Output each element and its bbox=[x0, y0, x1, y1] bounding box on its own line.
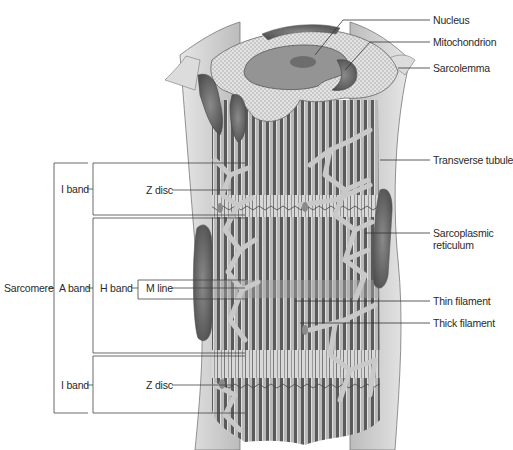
label-m-line: M line bbox=[146, 282, 173, 294]
nucleolus bbox=[290, 56, 316, 68]
label-i-band-bottom: I band bbox=[61, 379, 89, 391]
label-sarcomere: Sarcomere bbox=[4, 282, 54, 294]
label-nucleus: Nucleus bbox=[433, 14, 470, 26]
label-sarcoplasmic-reticulum-line1: Sarcoplasmic bbox=[433, 227, 494, 239]
label-sarcolemma: Sarcolemma bbox=[433, 62, 490, 74]
label-z-disc-top: Z disc bbox=[146, 184, 173, 196]
label-thick-filament: Thick filament bbox=[433, 317, 495, 329]
label-sarcoplasmic-reticulum-line2: reticulum bbox=[433, 239, 474, 251]
label-a-band: A band bbox=[59, 282, 91, 294]
label-h-band: H band bbox=[100, 282, 133, 294]
label-mitochondrion: Mitochondrion bbox=[433, 36, 496, 48]
label-thin-filament: Thin filament bbox=[433, 295, 491, 307]
label-i-band-top: I band bbox=[61, 183, 89, 195]
label-z-disc-bottom: Z disc bbox=[146, 379, 173, 391]
label-transverse-tubule: Transverse tubule bbox=[433, 154, 513, 166]
